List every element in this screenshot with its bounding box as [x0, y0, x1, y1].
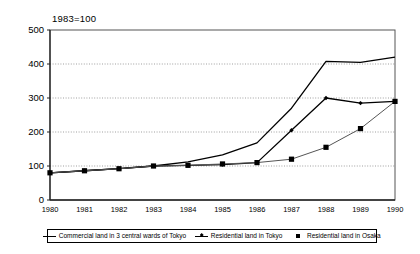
- data-point-marker: [323, 145, 328, 150]
- data-point-marker: [116, 166, 121, 171]
- diamond-marker-icon: [195, 232, 208, 240]
- x-tick-label: 1987: [283, 205, 300, 214]
- data-point-marker: [151, 163, 156, 168]
- chart-legend: Commercial land in 3 central wards of To…: [47, 229, 377, 243]
- y-tick-label: 200: [28, 126, 44, 137]
- data-point-marker: [392, 99, 397, 104]
- data-point-marker: [289, 157, 294, 162]
- y-tick-label: 400: [28, 58, 44, 69]
- x-tick-label: 1981: [76, 205, 93, 214]
- legend-item-residential-tokyo: Residential land in Tokyo: [195, 232, 282, 240]
- x-tick-label: 1989: [352, 205, 369, 214]
- data-point-marker: [358, 101, 362, 105]
- chart-container: 1983=100 0100200300400500198019811982198…: [0, 0, 420, 254]
- legend-label-commercial: Commercial land in 3 central wards of To…: [59, 233, 186, 240]
- legend-label-residential-osaka: Residential land in Osaka: [307, 233, 381, 240]
- series-line-0: [50, 57, 395, 173]
- data-point-marker: [185, 163, 190, 168]
- x-tick-label: 1982: [111, 205, 128, 214]
- chart-plot-area: 0100200300400500198019811982198319841985…: [0, 0, 420, 254]
- y-tick-label: 500: [28, 24, 44, 35]
- line-swatch-icon: [43, 232, 56, 240]
- legend-item-commercial: Commercial land in 3 central wards of To…: [43, 232, 186, 240]
- y-tick-label: 100: [28, 160, 44, 171]
- y-tick-label: 300: [28, 92, 44, 103]
- x-tick-label: 1988: [318, 205, 335, 214]
- x-tick-label: 1984: [180, 205, 197, 214]
- x-tick-label: 1983: [145, 205, 162, 214]
- x-tick-label: 1990: [387, 205, 404, 214]
- plot-frame: [50, 30, 395, 200]
- legend-label-residential-tokyo: Residential land in Tokyo: [211, 233, 283, 240]
- data-point-marker: [47, 170, 52, 175]
- x-tick-label: 1986: [249, 205, 266, 214]
- legend-item-residential-osaka: Residential land in Osaka: [292, 232, 381, 240]
- data-point-marker: [220, 161, 225, 166]
- x-tick-label: 1985: [214, 205, 231, 214]
- square-marker-icon: [292, 232, 305, 240]
- data-point-marker: [254, 160, 259, 165]
- data-point-marker: [82, 168, 87, 173]
- y-tick-label: 0: [39, 194, 44, 205]
- x-tick-label: 1980: [42, 205, 59, 214]
- data-point-marker: [358, 126, 363, 131]
